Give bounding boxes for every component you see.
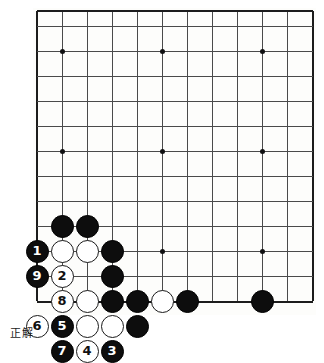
grid-line-horizontal-11: [37, 276, 313, 277]
stone-black: [126, 290, 149, 313]
stone-move-number: 1: [32, 244, 41, 257]
stone-black: [101, 290, 124, 313]
stone-white-move-4: 4: [76, 340, 99, 363]
grid-line-vertical-6: [187, 11, 188, 301]
grid-line-vertical-10: [287, 11, 288, 301]
stone-black-move-1: 1: [26, 240, 49, 263]
grid-line-horizontal-7: [37, 176, 313, 177]
grid-line-vertical-11: [312, 11, 314, 301]
stone-black-move-9: 9: [26, 265, 49, 288]
grid-line-vertical-7: [212, 11, 213, 301]
grid-line-horizontal-5: [37, 126, 313, 127]
stone-move-number: 2: [57, 269, 66, 282]
stone-black: [51, 215, 74, 238]
stone-black: [101, 265, 124, 288]
board-surface: [33, 8, 316, 315]
stone-move-number: 7: [57, 344, 66, 357]
stone-black: [101, 240, 124, 263]
stone-black: [251, 290, 274, 313]
stone-white-move-8: 8: [51, 290, 74, 313]
stone-white: [76, 315, 99, 338]
stone-black: [126, 315, 149, 338]
grid-line-horizontal-8: [37, 201, 313, 202]
stone-white: [76, 290, 99, 313]
stone-white-move-2: 2: [51, 265, 74, 288]
stone-black-move-7: 7: [51, 340, 74, 363]
stone-black-move-3: 3: [101, 340, 124, 363]
grid-line-vertical-9: [262, 11, 263, 301]
star-point-0: [60, 49, 65, 54]
grid-line-horizontal-0: [37, 10, 313, 12]
grid-line-vertical-4: [137, 11, 138, 301]
stone-black: [176, 290, 199, 313]
star-point-3: [60, 149, 65, 154]
stone-black: [76, 215, 99, 238]
diagram-caption: 正解: [10, 324, 34, 340]
grid-line-horizontal-1: [37, 26, 313, 27]
star-point-5: [260, 149, 265, 154]
star-point-8: [260, 249, 265, 254]
grid-line-horizontal-6: [37, 151, 313, 152]
grid-line-vertical-8: [237, 11, 238, 301]
grid-line-horizontal-3: [37, 76, 313, 77]
stone-white: [151, 290, 174, 313]
stone-move-number: 4: [82, 344, 91, 357]
stone-move-number: 9: [32, 269, 41, 282]
stone-move-number: 5: [57, 319, 66, 332]
stone-black-move-5: 5: [51, 315, 74, 338]
stone-white: [101, 315, 124, 338]
stone-white: [51, 240, 74, 263]
star-point-7: [160, 249, 165, 254]
star-point-1: [160, 49, 165, 54]
stone-move-number: 3: [107, 344, 116, 357]
grid-line-horizontal-4: [37, 101, 313, 102]
stone-move-number: 8: [57, 294, 66, 307]
star-point-2: [260, 49, 265, 54]
grid-line-horizontal-2: [37, 51, 313, 52]
grid-line-vertical-5: [162, 11, 163, 301]
stone-white: [76, 240, 99, 263]
star-point-4: [160, 149, 165, 154]
